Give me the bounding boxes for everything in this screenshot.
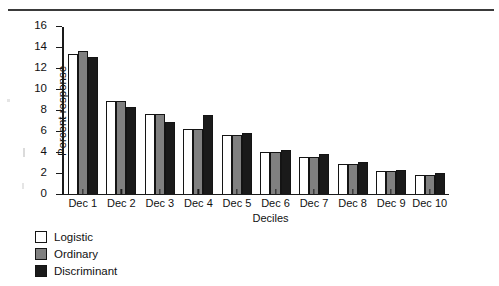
bar [415, 175, 425, 193]
y-axis-tick-label: 2 [41, 168, 47, 180]
bar-groups [64, 27, 450, 194]
bar [435, 173, 445, 193]
y-axis-tick: 0 [56, 194, 62, 196]
y-axis-tick: 6 [56, 131, 62, 133]
bar-group [141, 27, 180, 194]
y-axis-tick-label: 8 [41, 105, 47, 117]
bar-group-bars [106, 27, 136, 194]
legend-swatch [35, 231, 47, 243]
bar [203, 115, 213, 194]
x-axis-tick [275, 189, 276, 194]
bar-group-bars [183, 27, 213, 194]
y-axis-tick: 8 [56, 110, 62, 112]
legend: LogisticOrdinaryDiscriminant [35, 228, 117, 279]
y-axis-tick: 16 [56, 26, 62, 28]
x-axis-title: Deciles [0, 212, 499, 224]
x-axis-tick-labels: Dec 1Dec 2Dec 3Dec 4Dec 5Dec 6Dec 7Dec 8… [64, 197, 450, 209]
bar [260, 152, 270, 194]
y-axis-tick: 2 [56, 173, 62, 175]
y-axis-tick-label: 0 [41, 189, 47, 201]
bar [338, 164, 348, 193]
y-axis-tick-label: 4 [41, 147, 47, 159]
y-axis-tick-label: 12 [34, 63, 47, 75]
x-axis-tick [82, 189, 83, 194]
bar [309, 157, 319, 194]
legend-item: Logistic [35, 228, 117, 245]
bar-group [64, 27, 103, 194]
bar [270, 152, 280, 194]
bar [299, 157, 309, 194]
bar [88, 57, 98, 193]
x-axis-tick [159, 189, 160, 194]
bar-group [256, 27, 295, 194]
x-axis-tick [121, 189, 122, 194]
legend-label: Ordinary [54, 248, 98, 260]
bar [358, 162, 368, 193]
bar [126, 107, 136, 193]
bar-group [372, 27, 411, 194]
legend-swatch [35, 265, 47, 277]
bar [232, 135, 242, 194]
bar-group [333, 27, 372, 194]
legend-item: Ordinary [35, 245, 117, 262]
bar-group-bars [260, 27, 290, 194]
y-axis-tick: 14 [56, 47, 62, 49]
bar-group [179, 27, 218, 194]
bar-group [218, 27, 257, 194]
legend-swatch [35, 248, 47, 260]
x-axis-tick-label: Dec 7 [295, 197, 334, 209]
y-axis-tick-label: 16 [34, 21, 47, 33]
x-axis-tick [313, 189, 314, 194]
bar-group [295, 27, 334, 194]
y-axis-tick-label: 10 [34, 84, 47, 96]
x-axis-tick [390, 189, 391, 194]
scan-artifact [7, 99, 10, 102]
bar-group-bars [338, 27, 368, 194]
bar [78, 51, 88, 194]
bar-group-bars [222, 27, 252, 194]
bar-group-bars [376, 27, 406, 194]
y-axis-tick: 4 [56, 152, 62, 154]
x-axis-tick-label: Dec 3 [141, 197, 180, 209]
bar [222, 135, 232, 194]
bar [155, 114, 165, 193]
bar [396, 170, 406, 194]
bar-group [102, 27, 141, 194]
bar [319, 154, 329, 193]
x-axis-tick [429, 189, 430, 194]
plot-area: 0246810121416 [62, 27, 449, 195]
x-axis-tick-label: Dec 6 [256, 197, 295, 209]
bar [281, 150, 291, 193]
x-axis-tick-label: Dec 4 [179, 197, 218, 209]
x-axis-tick-label: Dec 8 [333, 197, 372, 209]
bar [183, 129, 193, 194]
bar [165, 122, 175, 194]
bar [242, 133, 252, 194]
bar-group-bars [299, 27, 329, 194]
legend-item: Discriminant [35, 262, 117, 279]
bar [145, 114, 155, 193]
x-axis-tick-label: Dec 1 [64, 197, 103, 209]
page-top-rule [8, 9, 494, 11]
x-axis-tick-label: Dec 2 [102, 197, 141, 209]
x-axis-tick [352, 189, 353, 194]
bar-group-bars [415, 27, 445, 194]
x-axis-tick-label: Dec 9 [372, 197, 411, 209]
y-axis-tick: 12 [56, 68, 62, 70]
legend-label: Discriminant [54, 265, 117, 277]
bar [106, 101, 116, 193]
bar [116, 101, 126, 193]
y-axis-tick-label: 14 [34, 42, 47, 54]
bar [193, 129, 203, 194]
x-axis-tick-label: Dec 5 [218, 197, 257, 209]
x-axis-tick-label: Dec 10 [410, 197, 449, 209]
y-axis-tick: 10 [56, 89, 62, 91]
bar-group-bars [68, 27, 98, 194]
legend-label: Logistic [54, 231, 93, 243]
figure-bar-chart-percent-response-by-decile: Percent response 0246810121416 Dec 1Dec … [0, 0, 499, 286]
y-axis-tick-label: 6 [41, 126, 47, 138]
bar-group-bars [145, 27, 175, 194]
bar [376, 171, 386, 193]
x-axis-tick [236, 189, 237, 194]
bar-group [410, 27, 449, 194]
